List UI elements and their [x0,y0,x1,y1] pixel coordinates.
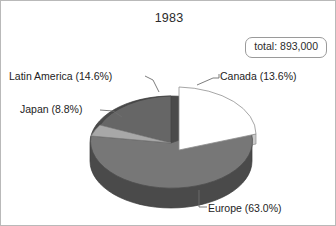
pie-label-latin-america: Latin America (14.6%) [9,71,112,83]
pie-chart-figure: 1983 total: 893,000 Lat [0,0,336,226]
pie-label-japan: Japan (8.8%) [20,104,82,116]
leader-line-latin-america [145,76,159,92]
pie-label-canada: Canada (13.6%) [220,71,296,83]
pie-label-europe: Europe (63.0%) [208,203,282,215]
leader-line-canada [197,74,219,85]
